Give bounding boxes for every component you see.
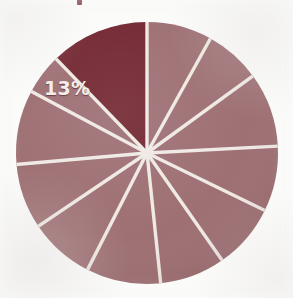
cropped-title-descender	[77, 0, 82, 5]
pie-chart-svg	[0, 0, 293, 298]
pie-slice-label-highlight: 13%	[44, 79, 90, 98]
pie-chart-figure: 13%	[0, 0, 293, 298]
pie-center-hub	[144, 150, 149, 155]
chart-plot-area: 13%	[0, 0, 293, 298]
